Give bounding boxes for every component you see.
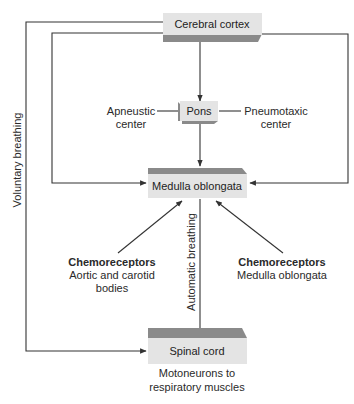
breathing-control-diagram: Cerebral cortex Pons Medulla oblongata S…: [0, 0, 354, 404]
spinal-cord-box: Spinal cord: [148, 328, 247, 364]
spinal-cord-sublabel-line2: respiratory muscles: [149, 381, 245, 393]
pneumotaxic-center-label-line2: center: [261, 118, 292, 130]
central-chemoreceptors-title: Chemoreceptors: [238, 256, 325, 268]
spinal-cord-label: Spinal cord: [169, 345, 224, 357]
cerebral-cortex-box: Cerebral cortex: [163, 13, 262, 42]
peripheral-chemoreceptors-title: Chemoreceptors: [68, 256, 155, 268]
spinal-cord-sublabel-line1: Motoneurons to: [159, 367, 235, 379]
voluntary-breathing-path: [26, 22, 163, 351]
central-chemoreceptor-arrow: [216, 201, 283, 253]
automatic-breathing-label: Automatic breathing: [185, 213, 197, 311]
apneustic-center-label-line1: Apneustic: [107, 105, 156, 117]
medulla-oblongata-label: Medulla oblongata: [152, 180, 243, 192]
central-chemoreceptors-line1: Medulla oblongata: [237, 269, 328, 281]
medulla-oblongata-box: Medulla oblongata: [148, 168, 247, 198]
cerebral-cortex-label: Cerebral cortex: [174, 18, 250, 30]
pons-box: Pons: [178, 101, 218, 124]
pneumotaxic-center-label-line1: Pneumotaxic: [244, 105, 308, 117]
peripheral-chemoreceptors-line1: Aortic and carotid: [69, 269, 155, 281]
voluntary-breathing-label: Voluntary breathing: [11, 113, 23, 208]
peripheral-chemoreceptors-line2: bodies: [96, 282, 129, 294]
peripheral-chemoreceptor-arrow: [118, 201, 182, 253]
apneustic-center-label-line2: center: [116, 118, 147, 130]
pons-label: Pons: [186, 105, 212, 117]
